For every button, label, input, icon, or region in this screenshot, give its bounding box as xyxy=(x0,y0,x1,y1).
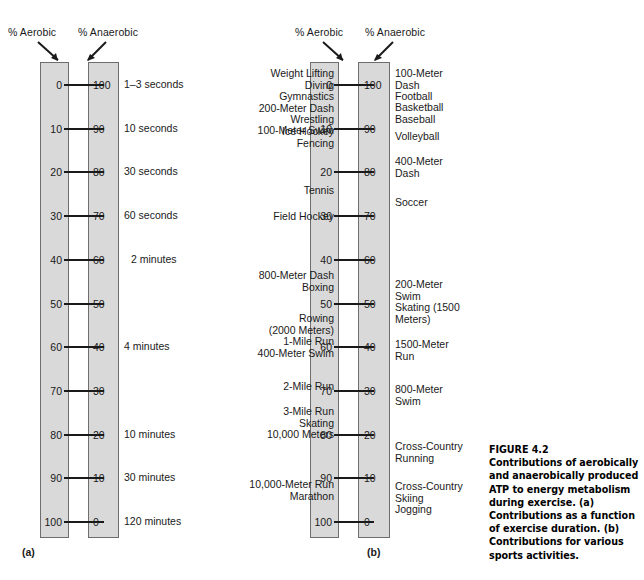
anaerobic-tick-value: 30 xyxy=(364,386,376,397)
sport-label-anaerobic-side: Basketball Baseball xyxy=(395,102,490,125)
panel-b-anaerobic-arrow-icon xyxy=(371,40,403,64)
panel-b-header-anaerobic: % Anaerobic xyxy=(365,26,425,38)
sport-label-anaerobic-side: 1500-Meter Run xyxy=(395,339,490,362)
duration-label: 120 minutes xyxy=(124,516,181,528)
duration-label: 10 seconds xyxy=(124,123,178,135)
anaerobic-tick-value: 50 xyxy=(364,298,376,309)
tick-mark xyxy=(334,84,356,86)
tick-mark xyxy=(334,434,356,436)
panel-a-aerobic-arrow-icon xyxy=(36,40,68,64)
anaerobic-tick-value: 40 xyxy=(364,342,376,353)
tick-mark xyxy=(334,303,356,305)
sport-label-aerobic-side: 3-Mile Run Skating 10,000 Meters xyxy=(194,406,334,441)
panel-b-aerobic-arrow-icon xyxy=(321,40,353,64)
anaerobic-tick-value: 90 xyxy=(93,123,105,134)
tick-mark xyxy=(64,390,86,392)
panel-b-header-aerobic: % Aerobic xyxy=(295,26,343,38)
aerobic-tick-value: 90 xyxy=(40,473,62,484)
sport-label-aerobic-side: Field Hockey xyxy=(194,211,334,223)
aerobic-tick-value: 60 xyxy=(40,342,62,353)
figure-number: FIGURE 4.2 xyxy=(489,443,641,456)
duration-label: 1–3 seconds xyxy=(124,79,184,91)
tick-mark xyxy=(334,215,356,217)
anaerobic-tick-value: 0 xyxy=(93,517,99,528)
anaerobic-tick-value: 70 xyxy=(93,211,105,222)
sport-label-anaerobic-side: 100-Meter Dash Football xyxy=(395,68,490,103)
figure-caption-text: Contributions of aerobically and anaerob… xyxy=(489,456,641,562)
anaerobic-tick-value: 10 xyxy=(364,473,376,484)
sport-label-anaerobic-side: Cross-Country Skiing Jogging xyxy=(395,481,490,516)
panel-a-anaerobic-arrow-icon xyxy=(84,40,116,64)
tick-mark xyxy=(64,128,86,130)
tick-mark xyxy=(64,434,86,436)
duration-label: 4 minutes xyxy=(124,341,170,353)
figure-caption: FIGURE 4.2 Contributions of aerobically … xyxy=(489,443,641,562)
aerobic-tick-value: 100 xyxy=(40,517,62,528)
sport-label-aerobic-side: Tennis xyxy=(194,185,334,197)
duration-label: 30 seconds xyxy=(124,166,178,178)
tick-mark xyxy=(334,477,356,479)
sport-label-anaerobic-side: 400-Meter Dash xyxy=(395,156,490,179)
anaerobic-tick-value: 60 xyxy=(93,255,105,266)
aerobic-tick-value: 10 xyxy=(40,123,62,134)
aerobic-tick-value: 40 xyxy=(40,255,62,266)
tick-mark xyxy=(334,171,356,173)
duration-label: 60 seconds xyxy=(124,210,178,222)
anaerobic-tick-value: 50 xyxy=(93,298,105,309)
aerobic-tick-value: 20 xyxy=(40,167,62,178)
tick-mark xyxy=(64,477,86,479)
sport-label-anaerobic-side: Soccer xyxy=(395,197,490,209)
anaerobic-tick-value: 30 xyxy=(93,386,105,397)
sport-label-anaerobic-side: Volleyball xyxy=(395,131,490,143)
sport-label-aerobic-side: Weight Lifting Diving Gymnastics 200-Met… xyxy=(194,68,334,149)
anaerobic-tick-value: 20 xyxy=(93,429,105,440)
anaerobic-tick-value: 0 xyxy=(364,517,370,528)
tick-mark xyxy=(64,171,86,173)
panel-a-header-aerobic: % Aerobic xyxy=(8,26,56,38)
aerobic-tick-value: 30 xyxy=(40,211,62,222)
aerobic-tick-value: 40 xyxy=(308,255,332,266)
anaerobic-tick-value: 40 xyxy=(93,342,105,353)
aerobic-tick-value: 100 xyxy=(308,517,332,528)
sport-label-aerobic-side: 2-Mile Run xyxy=(194,381,334,393)
tick-mark xyxy=(334,128,356,130)
anaerobic-tick-value: 10 xyxy=(93,473,105,484)
duration-label: 30 minutes xyxy=(124,472,175,484)
anaerobic-tick-value: 90 xyxy=(364,123,376,134)
aerobic-tick-value: 20 xyxy=(308,167,332,178)
tick-mark xyxy=(334,346,356,348)
tick-mark xyxy=(64,303,86,305)
sport-label-aerobic-side: 100-Meter Swim xyxy=(194,125,334,137)
aerobic-tick-value: 0 xyxy=(40,80,62,91)
sport-label-aerobic-side: 800-Meter Dash Boxing xyxy=(194,270,334,293)
anaerobic-tick-value: 80 xyxy=(93,167,105,178)
panel-b-sub-caption: (b) xyxy=(367,546,380,558)
aerobic-tick-value: 70 xyxy=(40,386,62,397)
sport-label-anaerobic-side: Cross-Country Running xyxy=(395,441,490,464)
anaerobic-tick-value: 20 xyxy=(364,429,376,440)
anaerobic-tick-value: 70 xyxy=(364,211,376,222)
tick-mark xyxy=(64,259,86,261)
aerobic-tick-value: 50 xyxy=(308,298,332,309)
panel-a-header-anaerobic: % Anaerobic xyxy=(78,26,138,38)
tick-mark xyxy=(64,346,86,348)
panel-a-sub-caption: (a) xyxy=(22,546,35,558)
duration-label: 10 minutes xyxy=(124,429,175,441)
sport-label-anaerobic-side: 200-Meter Swim Skating (1500 Meters) xyxy=(395,279,490,325)
tick-mark xyxy=(64,84,86,86)
tick-mark xyxy=(64,521,86,523)
tick-mark xyxy=(334,521,356,523)
sport-label-anaerobic-side: 800-Meter Swim xyxy=(395,384,490,407)
tick-mark xyxy=(334,390,356,392)
tick-mark xyxy=(334,259,356,261)
duration-label: 2 minutes xyxy=(131,254,177,266)
tick-mark xyxy=(64,215,86,217)
anaerobic-tick-value: 100 xyxy=(364,80,382,91)
sport-label-aerobic-side: 10,000-Meter Run Marathon xyxy=(194,479,334,502)
anaerobic-tick-value: 100 xyxy=(93,80,111,91)
sport-label-aerobic-side: Rowing (2000 Meters) 1-Mile Run 400-Mete… xyxy=(194,313,334,359)
aerobic-tick-value: 50 xyxy=(40,298,62,309)
anaerobic-tick-value: 80 xyxy=(364,167,376,178)
aerobic-tick-value: 80 xyxy=(40,429,62,440)
anaerobic-tick-value: 60 xyxy=(364,255,376,266)
